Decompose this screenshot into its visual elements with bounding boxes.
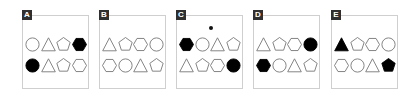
option-label: E	[331, 10, 341, 20]
pentagon-icon	[272, 37, 287, 52]
option-label: B	[99, 10, 109, 20]
hexagon-icon	[179, 37, 194, 52]
option-panel-b[interactable]: B	[99, 15, 166, 89]
pentagon-icon	[118, 37, 133, 52]
hexagon-icon	[72, 37, 87, 52]
hexagon-icon	[102, 58, 117, 73]
triangle-icon	[133, 58, 148, 73]
triangle-icon	[41, 58, 56, 73]
shape-row	[25, 37, 87, 52]
triangle-icon	[210, 37, 225, 52]
option-panel-c[interactable]: C	[176, 15, 243, 89]
hexagon-icon	[210, 58, 225, 73]
pentagon-icon	[56, 37, 71, 52]
option-panel-a[interactable]: A	[22, 15, 89, 89]
option-label: D	[253, 10, 263, 20]
circle-icon	[303, 37, 318, 52]
circle-icon	[272, 58, 287, 73]
pentagon-icon	[195, 58, 210, 73]
hexagon-icon	[72, 58, 87, 73]
shape-row	[25, 58, 87, 73]
circle-icon	[25, 37, 40, 52]
circle-icon	[25, 58, 40, 73]
pentagon-icon	[226, 37, 241, 52]
option-label: A	[22, 10, 32, 20]
triangle-icon	[41, 37, 56, 52]
circle-icon	[381, 37, 396, 52]
hexagon-icon	[133, 37, 148, 52]
shape-row	[179, 58, 241, 73]
shape-row	[179, 37, 241, 52]
triangle-icon	[287, 58, 302, 73]
option-label: C	[176, 10, 186, 20]
pentagon-icon	[56, 58, 71, 73]
dot-marker	[209, 26, 213, 30]
triangle-icon	[102, 37, 117, 52]
pentagon-icon	[381, 58, 396, 73]
circle-icon	[226, 58, 241, 73]
pentagon-icon	[350, 37, 365, 52]
shape-row	[102, 37, 164, 52]
hexagon-icon	[287, 37, 302, 52]
shape-row	[334, 37, 396, 52]
pentagon-icon	[303, 58, 318, 73]
triangle-icon	[334, 37, 349, 52]
circle-icon	[350, 58, 365, 73]
triangle-icon	[256, 37, 271, 52]
hexagon-icon	[365, 37, 380, 52]
option-panel-d[interactable]: D	[253, 15, 320, 89]
option-panel-e[interactable]: E	[331, 15, 398, 89]
shape-row	[256, 37, 318, 52]
triangle-icon	[179, 58, 194, 73]
shape-row	[334, 58, 396, 73]
triangle-icon	[365, 58, 380, 73]
circle-icon	[195, 37, 210, 52]
circle-icon	[118, 58, 133, 73]
shape-row	[102, 58, 164, 73]
pentagon-icon	[149, 58, 164, 73]
shape-row	[256, 58, 318, 73]
circle-icon	[149, 37, 164, 52]
hexagon-icon	[256, 58, 271, 73]
hexagon-icon	[334, 58, 349, 73]
